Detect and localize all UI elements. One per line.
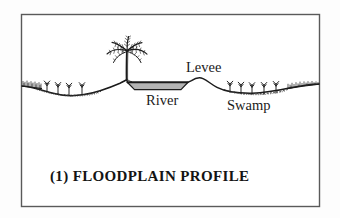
label-levee: Levee — [186, 60, 221, 75]
label-river: River — [146, 93, 178, 108]
floodplain-profile-figure: Levee River Swamp (1) FLOODPLAIN PROFILE — [0, 0, 340, 218]
river-water-fill — [128, 83, 188, 90]
label-swamp: Swamp — [227, 98, 271, 113]
figure-caption: (1) FLOODPLAIN PROFILE — [50, 168, 249, 185]
floodplain-cross-section-drawing — [0, 0, 340, 218]
